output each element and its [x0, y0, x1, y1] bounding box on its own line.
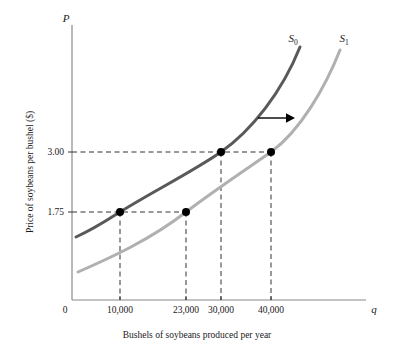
curve-label-s0: S0 — [288, 32, 298, 47]
y-axis-title: Price of soybeans per bushel ($) — [25, 111, 36, 233]
x-axis-variable-label: q — [371, 303, 377, 315]
curve-label-s0-subscript: 0 — [294, 38, 298, 47]
curve-label-s1-subscript: 1 — [345, 38, 349, 47]
origin-label: 0 — [63, 305, 68, 315]
curve-label-s1: S1 — [339, 32, 349, 47]
y-axis-variable-label: P — [62, 12, 70, 24]
y-tick-label-175: 1.75 — [47, 207, 64, 217]
x-tick-label-40000: 40,000 — [258, 305, 284, 315]
data-point-30000-300 — [217, 148, 225, 156]
supply-shift-chart-figure: P q 0 1.75 3.00 10,000 23,000 30,000 40,… — [0, 0, 394, 355]
shift-arrow-annotation — [258, 113, 295, 123]
chart-canvas: P q 0 1.75 3.00 10,000 23,000 30,000 40,… — [0, 0, 394, 355]
x-tick-label-10000: 10,000 — [107, 305, 133, 315]
data-point-23000-175 — [182, 208, 190, 216]
x-axis-title: Bushels of soybeans produced per year — [123, 330, 272, 340]
data-point-10000-175 — [116, 208, 124, 216]
x-tick-label-23000: 23,000 — [173, 305, 199, 315]
supply-curve-s0 — [76, 47, 300, 237]
shift-arrow-head — [286, 113, 295, 123]
y-tick-label-300: 3.00 — [47, 147, 64, 157]
data-point-40000-300 — [267, 148, 275, 156]
x-tick-label-30000: 30,000 — [208, 305, 234, 315]
